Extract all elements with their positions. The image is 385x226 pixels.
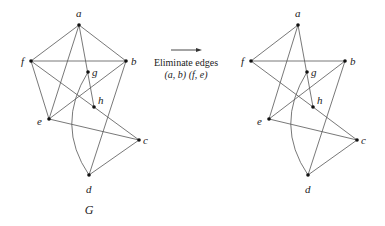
operation-annotation: Eliminate edges (a, b) (f, e)	[154, 48, 218, 81]
node-h	[92, 105, 96, 109]
node-label-d: d	[86, 183, 92, 195]
node-label-e: e	[37, 115, 42, 127]
node-d	[306, 173, 310, 177]
node-label-b: b	[350, 55, 356, 67]
graph-diagram: abcdefghG Eliminate edges (a, b) (f, e) …	[0, 0, 385, 226]
node-c	[355, 138, 359, 142]
edge-e-c	[269, 119, 357, 140]
edge-a-f	[31, 25, 79, 61]
graph-caption: G	[85, 203, 94, 217]
node-d	[87, 173, 91, 177]
node-label-a: a	[295, 7, 301, 19]
edge-a-b	[79, 25, 126, 61]
node-g	[86, 70, 90, 74]
edge-b-d	[308, 61, 345, 175]
node-label-g: g	[311, 66, 317, 78]
node-b	[124, 59, 128, 63]
edge-e-c	[49, 119, 139, 140]
edge-c-d	[89, 140, 139, 175]
edge-a-e	[49, 25, 79, 119]
edge-f-h	[251, 61, 313, 107]
arrow-head-icon	[196, 48, 202, 52]
node-a	[296, 23, 300, 27]
edge-b-e	[269, 61, 345, 119]
node-h	[311, 105, 315, 109]
node-label-e: e	[257, 115, 262, 127]
graph-g-original: abcdefghG	[21, 7, 148, 217]
node-label-b: b	[131, 55, 137, 67]
node-label-h: h	[317, 94, 323, 106]
node-label-h: h	[98, 94, 104, 106]
node-label-d: d	[305, 183, 311, 195]
node-e	[267, 117, 271, 121]
edge-f-h	[31, 61, 94, 107]
node-b	[343, 59, 347, 63]
node-a	[77, 23, 81, 27]
edge-a-f	[251, 25, 298, 61]
operation-line2: (a, b) (f, e)	[164, 69, 208, 81]
operation-line1: Eliminate edges	[154, 57, 218, 68]
node-f	[249, 59, 253, 63]
edge-f-e	[31, 61, 49, 119]
node-label-g: g	[92, 66, 98, 78]
node-label-a: a	[76, 7, 82, 19]
curved-edge-g-d	[291, 72, 308, 175]
node-e	[47, 117, 51, 121]
node-label-f: f	[21, 55, 26, 67]
edge-c-d	[308, 140, 357, 175]
node-label-c: c	[361, 134, 366, 146]
edge-b-d	[89, 61, 126, 175]
edge-a-e	[269, 25, 298, 119]
node-f	[29, 59, 33, 63]
graph-g-reduced: abcdefgh	[241, 7, 366, 195]
node-label-f: f	[241, 55, 246, 67]
curved-edge-g-d	[72, 72, 89, 175]
node-c	[137, 138, 141, 142]
node-label-c: c	[143, 134, 148, 146]
node-g	[305, 70, 309, 74]
